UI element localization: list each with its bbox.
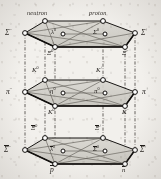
label-lambda-bar-zero: λ0 xyxy=(50,145,55,153)
node-kaon-zero-back xyxy=(43,78,48,83)
label-xi-bar-zero: Ξ0 xyxy=(31,124,37,132)
node-kaon-plus xyxy=(101,78,106,83)
label-eta-zero: η0 xyxy=(50,87,55,95)
node-proton xyxy=(101,19,106,24)
label-proton: proton xyxy=(89,10,106,16)
label-kaon-zero-front: K0 xyxy=(48,108,55,116)
label-n-bar: n xyxy=(122,167,125,174)
middle-layer-hexagon xyxy=(25,80,135,106)
node-sigma-zero-top xyxy=(103,32,107,36)
label-sigma-bar-zero: Σ0 xyxy=(93,145,99,153)
node-xi-bar-plus xyxy=(101,136,106,141)
diagram-geometry xyxy=(0,0,161,179)
label-kaon-zero-back: K0 xyxy=(32,66,39,74)
node-sigma-bar-plus xyxy=(133,148,138,153)
node-eta-zero xyxy=(61,91,65,95)
label-xi-bar-plus: Ξ+ xyxy=(95,124,102,132)
node-pi-minus-mid xyxy=(23,90,28,95)
label-sigma-minus-top: Σ− xyxy=(5,28,12,36)
node-sigma-bar-minus xyxy=(23,148,28,153)
label-pi-zero: π0 xyxy=(94,87,100,95)
node-sigma-minus-top xyxy=(23,31,28,36)
node-lambda-zero-top xyxy=(61,32,65,36)
label-sigma-bar-plus: Σ+ xyxy=(140,145,147,153)
top-layer-hexagon xyxy=(25,21,135,47)
node-lambda-bar-zero xyxy=(61,149,65,153)
hadron-multiplet-figure: neutron proton Σ− Σ+ λ0 Σ0 Ξ0 Ξ− K0 K+ π… xyxy=(0,0,161,179)
label-xi-zero-top: Ξ0 xyxy=(47,49,53,57)
node-pi-zero xyxy=(103,91,107,95)
node-neutron xyxy=(43,19,48,24)
label-sigma-plus-top: Σ+ xyxy=(141,28,148,36)
node-xi-bar-zero xyxy=(43,136,48,141)
label-xi-minus-top: Ξ− xyxy=(122,49,129,57)
node-pi-plus-mid xyxy=(133,90,138,95)
label-pi-plus-mid: π+ xyxy=(142,87,148,95)
label-neutron: neutron xyxy=(27,10,47,16)
label-sigma-zero-top: Σ0 xyxy=(93,28,99,36)
label-sigma-bar-minus: Σ− xyxy=(4,145,11,153)
label-p-bar: p xyxy=(50,166,54,174)
label-lambda-zero-top: λ0 xyxy=(51,28,56,36)
label-kaon-plus: K+ xyxy=(96,66,103,74)
node-sigma-bar-zero xyxy=(103,149,107,153)
label-pi-minus-mid: π− xyxy=(6,87,12,95)
label-kaon-minus: K− xyxy=(122,108,129,116)
bottom-layer-hexagon xyxy=(25,138,135,164)
node-sigma-plus-top xyxy=(133,31,138,36)
